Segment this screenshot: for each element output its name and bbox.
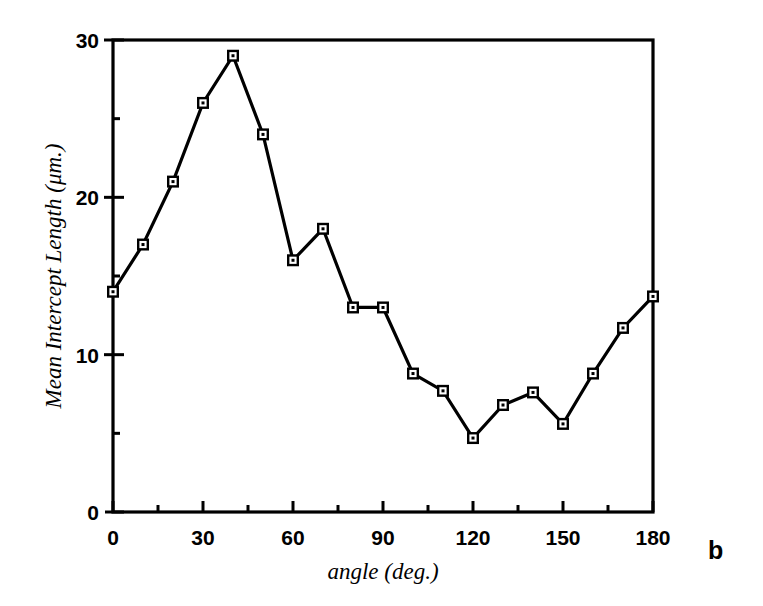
marker-dot [262, 133, 265, 136]
marker-dot [562, 422, 565, 425]
marker-dot [292, 259, 295, 262]
x-axis-title: angle (deg.) [327, 560, 438, 583]
data-point-marker [197, 97, 209, 109]
marker-dot [322, 227, 325, 230]
panel-label: b [708, 538, 723, 563]
x-tick-label: 30 [191, 527, 214, 548]
y-tick-label: 30 [76, 30, 99, 51]
x-tick-label: 180 [635, 527, 670, 548]
data-point-marker [257, 128, 269, 140]
series-line [113, 56, 653, 438]
marker-dot [442, 389, 445, 392]
axes-group [113, 40, 653, 512]
data-point-marker [647, 290, 659, 302]
data-point-marker [137, 239, 149, 251]
data-point-marker [527, 386, 539, 398]
data-point-marker [167, 176, 179, 188]
marker-dot [352, 306, 355, 309]
marker-dot [502, 404, 505, 407]
data-point-marker [467, 432, 479, 444]
marker-dot [232, 54, 235, 57]
data-point-marker [287, 254, 299, 266]
y-tick-label: 20 [76, 187, 99, 208]
line-chart-plot [0, 0, 763, 606]
chart-figure: 0306090120150180 0102030 angle (deg.) Me… [0, 0, 763, 606]
data-point-marker [107, 286, 119, 298]
marker-dot [202, 101, 205, 104]
data-point-marker [347, 301, 359, 313]
data-point-marker [557, 418, 569, 430]
data-point-marker [497, 399, 509, 411]
y-tick-label: 0 [87, 502, 99, 523]
y-axis-title: Mean Intercept Length (μm.) [42, 144, 65, 409]
x-tick-label: 150 [545, 527, 580, 548]
marker-dot [412, 372, 415, 375]
marker-dot [382, 306, 385, 309]
data-point-marker [377, 301, 389, 313]
data-point-marker [317, 223, 329, 235]
data-point-marker [227, 50, 239, 62]
tick-marks-group [104, 40, 653, 512]
plot-frame [113, 40, 653, 512]
data-point-marker [617, 322, 629, 334]
marker-dot [172, 180, 175, 183]
marker-dot [652, 295, 655, 298]
data-point-marker [587, 368, 599, 380]
marker-dot [112, 290, 115, 293]
data-markers-group [107, 50, 659, 444]
data-point-marker [407, 368, 419, 380]
x-tick-label: 0 [107, 527, 119, 548]
data-point-marker [437, 385, 449, 397]
marker-dot [472, 437, 475, 440]
y-tick-label: 10 [76, 344, 99, 365]
data-series-group [113, 56, 653, 438]
marker-dot [532, 391, 535, 394]
x-tick-label: 120 [455, 527, 490, 548]
x-tick-label: 60 [281, 527, 304, 548]
x-tick-label: 90 [371, 527, 394, 548]
marker-dot [142, 243, 145, 246]
marker-dot [592, 372, 595, 375]
marker-dot [622, 326, 625, 329]
